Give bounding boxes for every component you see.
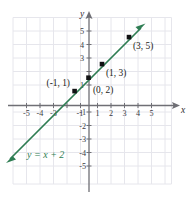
y-tick-label: -1	[79, 108, 86, 117]
graph-figure: -5 -4 -3 -1 1 2 3 4 5 5 4 3 1 -1 -2 -3 -…	[0, 0, 193, 200]
y-tick-label: 4	[80, 41, 84, 50]
x-tick-label: 2	[109, 109, 113, 118]
data-point-marker	[127, 35, 132, 40]
coordinate-plane-graph: -5 -4 -3 -1 1 2 3 4 5 5 4 3 1 -1 -2 -3 -…	[0, 0, 193, 200]
y-tick-label: -4	[79, 149, 86, 158]
x-tick-label: 3	[122, 109, 126, 118]
data-point-label: (-1, 1)	[47, 78, 70, 89]
equation-annotation: y = x + 2	[26, 149, 64, 160]
data-point-label: (3, 5)	[133, 41, 153, 52]
figure-background	[0, 0, 193, 200]
data-point-marker	[100, 62, 105, 67]
x-tick-label: 5	[149, 109, 153, 118]
x-tick-label: 1	[95, 109, 99, 118]
y-tick-label: -2	[79, 122, 86, 131]
data-point-marker	[72, 89, 77, 94]
y-tick-label: 3	[80, 54, 84, 63]
y-axis-label: y	[79, 9, 85, 19]
y-tick-label: 5	[80, 27, 84, 36]
x-tick-label: -4	[37, 109, 44, 118]
data-point-label: (1, 3)	[106, 68, 126, 79]
x-tick-label: -5	[23, 109, 30, 118]
y-tick-label: -3	[79, 135, 86, 144]
x-tick-label: 4	[136, 109, 140, 118]
data-point-marker	[86, 75, 91, 80]
y-tick-label: -5	[79, 162, 86, 171]
data-point-label: (0, 2)	[93, 85, 113, 96]
x-axis-label: x	[180, 105, 186, 115]
